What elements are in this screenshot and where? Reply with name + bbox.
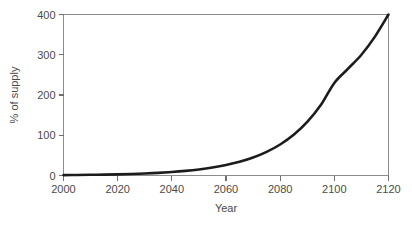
x-tick-label: 2000 <box>51 183 75 195</box>
y-axis-title: % of supply <box>8 66 20 123</box>
x-tick-label: 2080 <box>268 183 292 195</box>
plot-frame-path <box>64 15 389 176</box>
y-axis-tick-marks <box>59 15 64 176</box>
x-tick-label: 2120 <box>376 183 400 195</box>
y-axis-tick-labels: 0100200300400 <box>37 9 55 182</box>
y-tick-label: 400 <box>37 9 55 21</box>
x-axis-tick-labels: 2000202020402060208021002120 <box>51 183 400 195</box>
y-tick-label: 100 <box>37 129 55 141</box>
x-tick-label: 2100 <box>322 183 346 195</box>
x-axis-tick-marks <box>64 176 389 181</box>
x-tick-label: 2040 <box>160 183 184 195</box>
y-tick-label: 300 <box>37 49 55 61</box>
x-axis-title: Year <box>215 202 238 214</box>
plot-frame <box>64 15 389 176</box>
series-group <box>64 15 389 176</box>
x-tick-label: 2020 <box>105 183 129 195</box>
chart-canvas: 0100200300400 20002020204020602080210021… <box>0 0 412 226</box>
y-tick-label: 0 <box>49 170 55 182</box>
x-tick-label: 2060 <box>214 183 238 195</box>
data-series-line <box>64 15 389 176</box>
y-tick-label: 200 <box>37 89 55 101</box>
chart-figure: 0100200300400 20002020204020602080210021… <box>0 0 412 226</box>
